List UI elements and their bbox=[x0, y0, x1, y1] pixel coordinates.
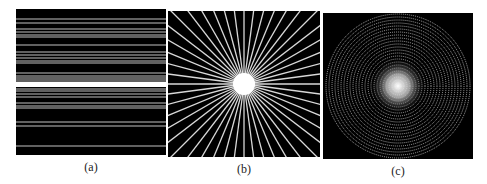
horizontal-lines-image bbox=[16, 9, 166, 155]
panel-a-horizontal-lines bbox=[16, 9, 166, 155]
concentric-rings-image bbox=[323, 13, 473, 159]
caption-b: (b) bbox=[224, 162, 264, 177]
caption-c: (c) bbox=[378, 164, 418, 179]
caption-a: (a) bbox=[71, 160, 111, 175]
panel-b-radial-star bbox=[168, 11, 320, 157]
panel-c-concentric-rings bbox=[323, 13, 473, 159]
radial-star-image bbox=[168, 11, 320, 157]
